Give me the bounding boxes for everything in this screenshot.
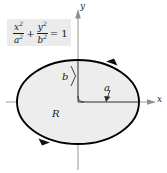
equation-operator: + [26,28,34,39]
ellipse-equation: x2 a2 + y2 b2 = 1 [9,21,71,45]
semi-minor-label-b: b [62,71,68,82]
semi-major-label-a: a [104,82,110,93]
equation-denominator-a: a2 [13,34,24,45]
y-axis-label: y [80,1,85,11]
equation-fraction-y: y2 b2 [37,21,49,44]
region-label-R: R [52,108,60,119]
x-axis-label: x [157,94,162,104]
equation-denominator-b: b2 [37,34,49,45]
equation-fraction-x: x2 a2 [13,21,24,44]
equation-equals-one: = 1 [50,28,68,39]
ellipse-figure: x2 a2 + y2 b2 = 1 y x b a R [0,0,167,173]
x-axis-arrowhead [147,99,156,105]
